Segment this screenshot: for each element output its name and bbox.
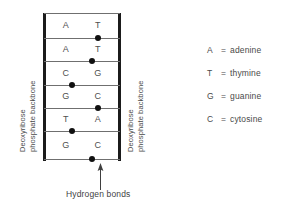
hydrogen-bonds-label: Hydrogen bonds: [66, 189, 130, 199]
legend-symbol: A: [207, 45, 217, 55]
base-letter-right: C: [92, 141, 104, 150]
hydrogen-bond-dot: [69, 82, 75, 88]
hydrogen-bond-dot: [89, 156, 95, 162]
legend-base-name: adenine: [230, 45, 261, 55]
legend-equals-sign: =: [217, 91, 230, 101]
base-letter-right: T: [92, 21, 104, 30]
rung-line: [44, 85, 120, 86]
right-backbone-line: [118, 13, 121, 161]
legend-row: T=thymine: [207, 68, 279, 91]
hydrogen-bond-dot: [95, 105, 101, 111]
legend-row: A=adenine: [207, 45, 279, 68]
legend-symbol: G: [207, 91, 217, 101]
up-arrow-icon: [96, 163, 105, 190]
legend-equals-sign: =: [217, 114, 230, 124]
base-letter-left: C: [60, 69, 72, 78]
base-letter-left: T: [60, 115, 72, 124]
rung-line: [44, 38, 120, 39]
legend-base-name: cytosine: [230, 114, 262, 124]
legend-base-name: thymine: [230, 68, 261, 78]
hydrogen-bond-dot: [95, 35, 101, 41]
base-letter-right: T: [92, 45, 104, 54]
legend-equals-sign: =: [217, 45, 230, 55]
base-letter-left: A: [60, 21, 72, 30]
base-letter-left: A: [60, 45, 72, 54]
legend-base-name: guanine: [230, 91, 261, 101]
left-backbone-caption-line2: phosphate backbone: [28, 81, 38, 152]
left-backbone-line: [43, 13, 46, 161]
left-backbone-caption: Deoxyribose phosphate backbone: [18, 81, 37, 152]
base-legend: A=adenineT=thymineG=guanineC=cytosine: [207, 45, 279, 137]
dna-diagram-canvas: ATATCGGCTAGC Deoxyribose phosphate backb…: [0, 0, 282, 208]
rung-line: [44, 13, 120, 14]
right-backbone-caption: Deoxyribose phosphate backbone: [126, 81, 145, 152]
right-backbone-caption-line1: Deoxyribose: [126, 81, 136, 152]
dna-ladder: ATATCGGCTAGC: [43, 13, 121, 161]
rung-line: [44, 159, 120, 160]
legend-row: G=guanine: [207, 91, 279, 114]
base-letter-right: A: [92, 115, 104, 124]
left-backbone-caption-line1: Deoxyribose: [18, 81, 28, 152]
legend-row: C=cytosine: [207, 114, 279, 137]
rung-line: [44, 131, 120, 132]
hydrogen-bond-dot: [89, 58, 95, 64]
legend-symbol: C: [207, 114, 217, 124]
base-letter-left: G: [60, 92, 72, 101]
rung-line: [44, 108, 120, 109]
base-letter-left: G: [60, 141, 72, 150]
rung-line: [44, 61, 120, 62]
base-letter-right: C: [92, 92, 104, 101]
right-backbone-caption-line2: phosphate backbone: [136, 81, 146, 152]
base-letter-right: G: [92, 69, 104, 78]
legend-symbol: T: [207, 68, 217, 78]
legend-equals-sign: =: [217, 68, 230, 78]
hydrogen-bond-dot: [69, 128, 75, 134]
